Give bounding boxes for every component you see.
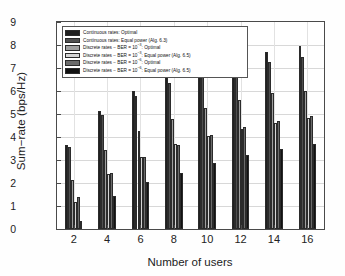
legend-label: Continuous rates: Equal power (Alg. 6.3) — [83, 38, 167, 44]
legend-swatch — [65, 53, 80, 59]
x-tick-mark — [307, 225, 308, 229]
x-axis-label: Number of users — [45, 256, 335, 268]
legend-label: Discrete rates − BER = 10−3: Equal power… — [83, 53, 191, 59]
bar — [80, 221, 83, 229]
x-tick-label: 2 — [56, 233, 92, 245]
x-tick-label: 8 — [156, 233, 192, 245]
y-tick-mark — [57, 45, 61, 46]
bar — [280, 149, 283, 229]
legend-swatch — [65, 45, 80, 51]
x-tick-mark — [140, 225, 141, 229]
y-tick-mark — [57, 183, 61, 184]
y-tick-label: 7 — [0, 62, 16, 74]
x-tick-label: 16 — [289, 233, 325, 245]
legend-swatch — [65, 38, 80, 44]
legend-swatch — [65, 60, 80, 66]
x-tick-mark — [174, 225, 175, 229]
y-tick-mark — [57, 206, 61, 207]
y-tick-mark — [57, 114, 61, 115]
bar — [146, 182, 149, 229]
y-tick-label: 6 — [0, 85, 16, 97]
bar-group — [299, 22, 317, 229]
bar — [313, 144, 316, 229]
legend-item: Discrete rates − BER = 10−6: Optimal — [65, 59, 244, 67]
x-tick-label: 12 — [223, 233, 259, 245]
x-tick-label: 14 — [256, 233, 292, 245]
x-tick-label: 10 — [189, 233, 225, 245]
y-tick-mark — [57, 68, 61, 69]
plot-area: Continuous rates: OptimalContinuous rate… — [56, 21, 325, 230]
x-tick-mark — [207, 225, 208, 229]
legend-label: Discrete rates − BER = 10−6: Equal power… — [83, 68, 191, 74]
legend-label: Discrete rates − BER = 10−6: Optimal — [83, 60, 160, 66]
x-tick-mark — [107, 225, 108, 229]
bar — [246, 155, 249, 229]
legend-label: Discrete rates − BER = 10−3: Optimal — [83, 45, 160, 51]
y-tick-mark — [57, 137, 61, 138]
y-tick-label: 9 — [0, 16, 16, 28]
x-tick-mark — [241, 225, 242, 229]
x-tick-mark — [274, 225, 275, 229]
bar — [180, 173, 183, 229]
y-tick-label: 8 — [0, 39, 16, 51]
y-tick-mark — [57, 91, 61, 92]
legend: Continuous rates: OptimalContinuous rate… — [62, 26, 248, 78]
y-tick-label: 0 — [0, 223, 16, 235]
y-tick-label: 3 — [0, 154, 16, 166]
legend-item: Discrete rates − BER = 10−6: Equal power… — [65, 67, 244, 75]
x-tick-mark — [74, 225, 75, 229]
y-tick-label: 1 — [0, 200, 16, 212]
bar-group — [265, 22, 283, 229]
x-tick-label: 4 — [89, 233, 125, 245]
legend-swatch — [65, 68, 80, 74]
y-tick-mark — [57, 229, 61, 230]
y-tick-label: 5 — [0, 108, 16, 120]
figure: Sum−rate (bps/Hz) Continuous rates: Opti… — [0, 0, 345, 276]
y-tick-label: 2 — [0, 177, 16, 189]
y-tick-mark — [57, 22, 61, 23]
y-axis-label: Sum−rate (bps/Hz) — [15, 46, 27, 196]
legend-item: Continuous rates: Equal power (Alg. 6.3) — [65, 37, 244, 45]
legend-item: Discrete rates − BER = 10−3: Optimal — [65, 44, 244, 52]
bar — [213, 163, 216, 229]
x-tick-label: 6 — [122, 233, 158, 245]
legend-swatch — [65, 30, 80, 36]
y-tick-label: 4 — [0, 131, 16, 143]
bar — [113, 196, 116, 229]
y-tick-mark — [57, 160, 61, 161]
legend-label: Continuous rates: Optimal — [83, 30, 137, 36]
legend-item: Continuous rates: Optimal — [65, 29, 244, 37]
legend-item: Discrete rates − BER = 10−3: Equal power… — [65, 52, 244, 60]
